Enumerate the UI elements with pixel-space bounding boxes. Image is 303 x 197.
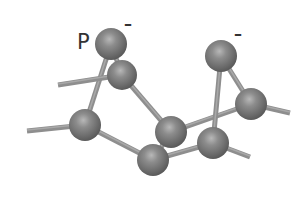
atom-sphere-h xyxy=(235,88,267,120)
atom-sphere-e xyxy=(137,144,169,176)
atom-sphere-f xyxy=(197,127,229,159)
atom-sphere-a xyxy=(95,28,127,60)
molecule-diagram xyxy=(0,0,303,197)
atom-sphere-d xyxy=(155,116,187,148)
atom-sphere-g xyxy=(205,40,237,72)
negative-charge-left: – xyxy=(124,16,132,32)
atom-sphere-c xyxy=(69,109,101,141)
negative-charge-right: – xyxy=(234,26,242,42)
atom-sphere-b xyxy=(107,60,137,90)
phosphorus-label: P xyxy=(77,32,90,53)
